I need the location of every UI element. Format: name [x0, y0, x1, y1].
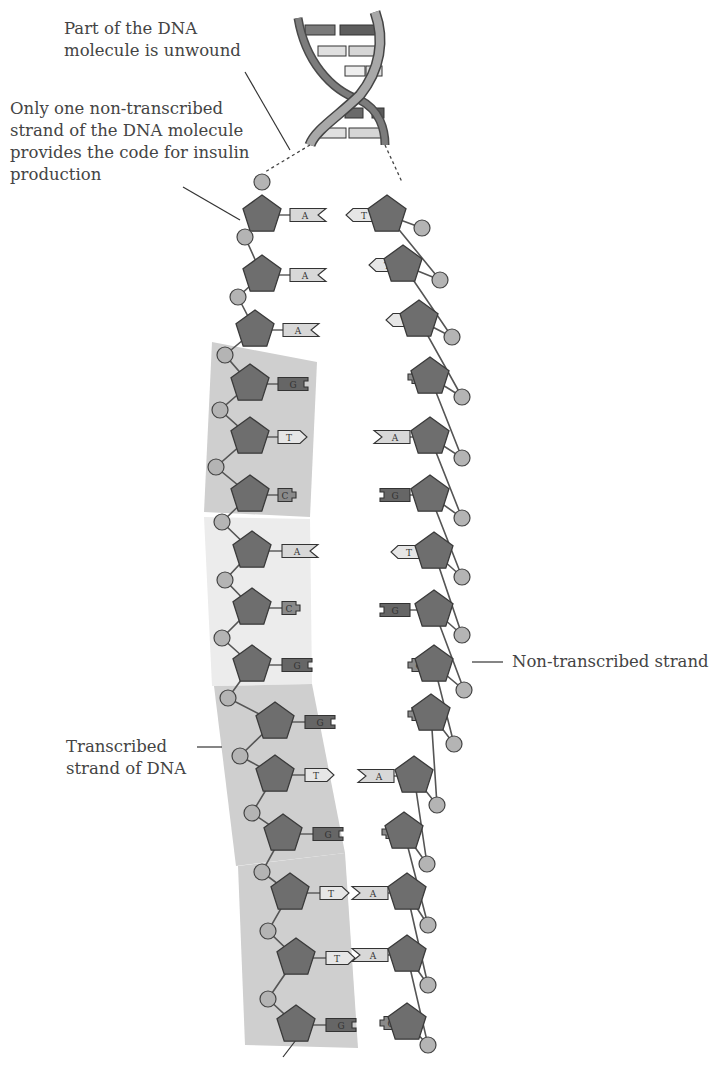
deoxyribose-sugar-icon [388, 935, 426, 971]
phosphate-icon [214, 630, 230, 646]
svg-text:A: A [293, 547, 301, 557]
svg-text:A: A [369, 951, 377, 961]
phosphate-icon [414, 220, 430, 236]
right-nucleotide: T [391, 532, 453, 568]
deoxyribose-sugar-icon [243, 195, 281, 231]
svg-text:A: A [375, 772, 383, 782]
right-nucleotide: A [374, 417, 449, 453]
phosphate-icon [254, 174, 270, 190]
phosphate-icon [254, 864, 270, 880]
svg-text:A: A [294, 326, 302, 336]
right-nucleotide: T [369, 245, 422, 281]
svg-text:G: G [316, 718, 323, 728]
right-nucleotide: A [352, 873, 426, 909]
phosphate-icon [454, 569, 470, 585]
svg-text:G: G [293, 661, 300, 671]
phosphate-icon [214, 514, 230, 530]
svg-text:T: T [406, 548, 412, 558]
deoxyribose-sugar-icon [388, 1003, 426, 1039]
phosphate-icon [454, 389, 470, 405]
phosphate-icon [454, 627, 470, 643]
base-t-icon [326, 952, 355, 965]
phosphate-icon [220, 690, 236, 706]
deoxyribose-sugar-icon [395, 756, 433, 792]
phosphate-icon [420, 977, 436, 993]
svg-text:G: G [289, 380, 296, 390]
deoxyribose-sugar-icon [368, 195, 406, 231]
deoxyribose-sugar-icon [236, 310, 274, 346]
right-nucleotide: T [346, 195, 406, 231]
phosphate-icon [260, 923, 276, 939]
phosphate-icon [420, 1037, 436, 1053]
right-nucleotide: G [380, 590, 453, 626]
svg-text:A: A [301, 211, 309, 221]
svg-text:A: A [301, 271, 309, 281]
phosphate-icon [232, 748, 248, 764]
dna-transcription-diagram: AAAGTCACGGTGTTGTTTCAGTGCCACAAC [0, 0, 723, 1073]
phosphate-icon [208, 459, 224, 475]
phosphate-icon [454, 510, 470, 526]
deoxyribose-sugar-icon [412, 694, 450, 730]
phosphate-icon [446, 736, 462, 752]
left-nucleotide: A [243, 255, 326, 291]
phosphate-icon [230, 289, 246, 305]
svg-text:C: C [282, 491, 289, 501]
base-t-icon [278, 431, 307, 444]
right-nucleotide: C [408, 645, 453, 681]
left-nucleotide: A [243, 195, 326, 231]
deoxyribose-sugar-icon [385, 812, 423, 848]
base-t-icon [320, 887, 349, 900]
svg-text:T: T [313, 771, 319, 781]
phosphate-icon [244, 805, 260, 821]
phosphate-icon [420, 917, 436, 933]
dna-helix-icon [265, 12, 402, 182]
phosphate-icon [237, 229, 253, 245]
svg-text:C: C [286, 604, 293, 614]
phosphate-icon [217, 572, 233, 588]
svg-text:G: G [324, 830, 331, 840]
deoxyribose-sugar-icon [415, 590, 453, 626]
base-t-icon [305, 769, 334, 782]
svg-text:T: T [334, 954, 340, 964]
svg-text:T: T [328, 889, 334, 899]
left-nucleotide: A [236, 310, 319, 346]
svg-text:T: T [361, 211, 367, 221]
phosphate-icon [217, 347, 233, 363]
deoxyribose-sugar-icon [411, 417, 449, 453]
svg-text:T: T [286, 433, 292, 443]
deoxyribose-sugar-icon [243, 255, 281, 291]
right-nucleotide: G [380, 475, 449, 511]
phosphate-icon [212, 402, 228, 418]
right-nucleotide: A [352, 935, 426, 971]
svg-text:A: A [369, 889, 377, 899]
phosphate-icon [444, 329, 460, 345]
deoxyribose-sugar-icon [415, 645, 453, 681]
svg-text:A: A [391, 433, 399, 443]
svg-text:G: G [391, 606, 398, 616]
svg-text:G: G [391, 491, 398, 501]
svg-text:G: G [337, 1021, 344, 1031]
phosphate-icon [260, 991, 276, 1007]
phosphate-icon [456, 682, 472, 698]
deoxyribose-sugar-icon [400, 300, 438, 336]
phosphate-icon [419, 856, 435, 872]
right-nucleotide: C [408, 694, 450, 730]
deoxyribose-sugar-icon [388, 873, 426, 909]
phosphate-icon [432, 272, 448, 288]
leader-line-one-strand [183, 187, 240, 220]
leader-line-unwound [245, 72, 290, 150]
deoxyribose-sugar-icon [411, 475, 449, 511]
phosphate-icon [454, 450, 470, 466]
right-nucleotide: A [358, 756, 433, 792]
right-nucleotide: C [382, 812, 423, 848]
phosphate-icon [429, 797, 445, 813]
